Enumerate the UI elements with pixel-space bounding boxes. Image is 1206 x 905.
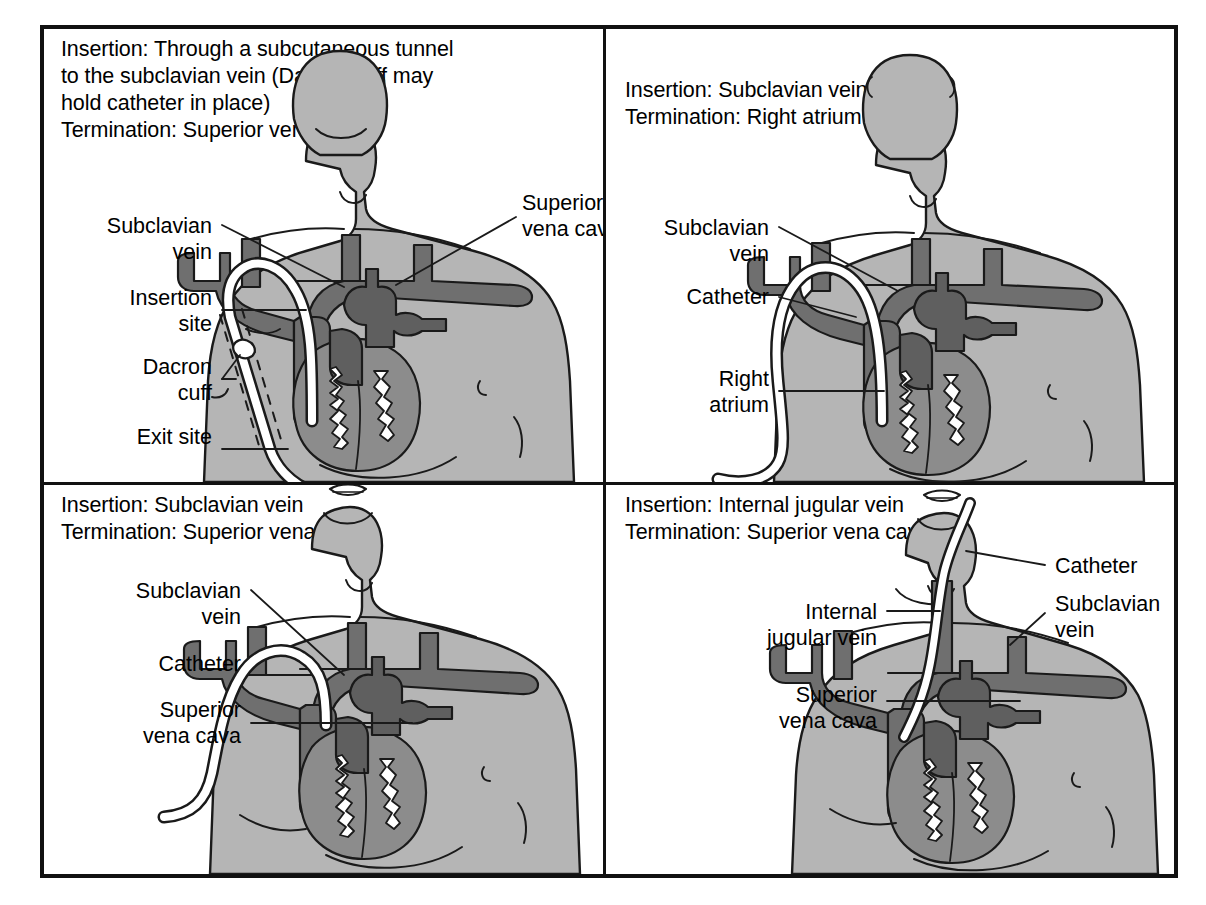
panel-subclavian-right-atrium: Insertion: Subclavian vein Termination: … bbox=[606, 29, 1174, 482]
panel-internal-jugular-svc: Insertion: Internal jugular vein Termina… bbox=[606, 485, 1174, 874]
anatomy-illustration bbox=[44, 485, 603, 874]
label-insertion-site: Insertion site bbox=[44, 286, 212, 337]
label-internal-jugular-vein: Internal jugular vein bbox=[606, 600, 877, 651]
panel-subclavian-svc: Insertion: Subclavian vein Termination: … bbox=[44, 485, 603, 874]
label-catheter: Catheter bbox=[1055, 554, 1174, 580]
label-exit-site: Exit site bbox=[44, 425, 212, 451]
anatomy-illustration bbox=[606, 485, 1174, 874]
label-subclavian-vein: Subclavian vein bbox=[606, 216, 769, 267]
label-subclavian-vein: Subclavian vein bbox=[44, 579, 241, 630]
label-subclavian-vein: Subclavian vein bbox=[44, 214, 212, 265]
panel-tunneled-subclavian-svc: Insertion: Through a subcutaneous tunnel… bbox=[44, 29, 603, 482]
label-superior-vena-cava: Superior vena cava bbox=[44, 698, 241, 749]
label-right-atrium: Right atrium bbox=[606, 367, 769, 418]
label-subclavian-vein: Subclavian vein bbox=[1055, 592, 1174, 643]
label-dacron-cuff: Dacron cuff bbox=[44, 355, 212, 406]
catheter-placement-figure: Insertion: Through a subcutaneous tunnel… bbox=[0, 0, 1206, 905]
label-catheter: Catheter bbox=[44, 652, 241, 678]
label-superior-vena-cava: Superior vena cava bbox=[522, 191, 603, 242]
label-superior-vena-cava: Superior vena cava bbox=[606, 683, 877, 734]
leader-catheter bbox=[966, 551, 1045, 565]
label-catheter: Catheter bbox=[606, 285, 769, 311]
